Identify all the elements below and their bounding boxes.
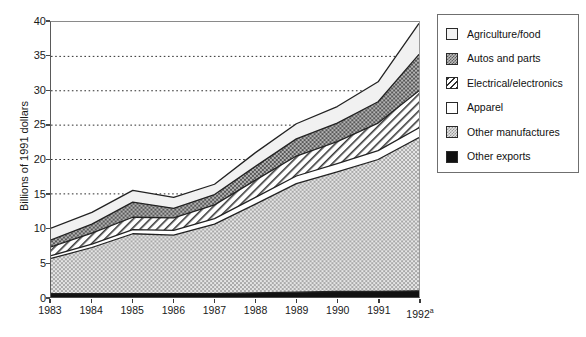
legend-item-agriculture-food[interactable]: Agriculture/food bbox=[446, 27, 541, 41]
y-tick-label: 25 bbox=[22, 119, 46, 130]
y-axis-ticks: 0510152025303540 bbox=[18, 0, 46, 337]
x-tick-mark bbox=[419, 299, 420, 303]
legend-label: Other exports bbox=[467, 151, 531, 162]
legend-item-electrical-electronics[interactable]: Electrical/electronics bbox=[446, 76, 563, 90]
legend-swatch-icon bbox=[446, 126, 458, 138]
plot-area bbox=[50, 21, 420, 298]
legend-label: Other manufactures bbox=[467, 127, 560, 138]
stacked-area-chart bbox=[51, 22, 419, 297]
legend-label: Agriculture/food bbox=[467, 29, 541, 40]
x-tick-footnote-marker: a bbox=[430, 307, 434, 314]
x-tick-mark bbox=[378, 299, 379, 303]
legend-item-apparel[interactable]: Apparel bbox=[446, 101, 503, 115]
x-tick-mark bbox=[132, 299, 133, 303]
legend-swatch-icon bbox=[446, 151, 458, 163]
y-tick-label: 5 bbox=[22, 258, 46, 269]
legend-swatch-icon bbox=[446, 53, 458, 65]
y-tick-label: 30 bbox=[22, 85, 46, 96]
legend-item-other-manufactures[interactable]: Other manufactures bbox=[446, 125, 560, 139]
x-tick-mark bbox=[255, 299, 256, 303]
x-tick-mark bbox=[337, 299, 338, 303]
y-tick-label: 10 bbox=[22, 223, 46, 234]
x-tick-mark bbox=[173, 299, 174, 303]
area-bands bbox=[51, 23, 419, 297]
chart-page: Billions of 1991 dollars 051015202530354… bbox=[0, 0, 586, 337]
legend-swatch-icon bbox=[446, 102, 458, 114]
legend-label: Electrical/electronics bbox=[467, 78, 563, 89]
legend-item-autos-and-parts[interactable]: Autos and parts bbox=[446, 52, 541, 66]
y-tick-label: 40 bbox=[22, 16, 46, 27]
legend-label: Autos and parts bbox=[467, 53, 541, 64]
legend-label: Apparel bbox=[467, 102, 503, 113]
legend-item-other-exports[interactable]: Other exports bbox=[446, 150, 531, 164]
legend-swatch-icon bbox=[446, 77, 458, 89]
y-tick-label: 35 bbox=[22, 50, 46, 61]
legend-swatch-icon bbox=[446, 28, 458, 40]
x-tick-label: 1992a bbox=[390, 305, 450, 320]
y-tick-label: 15 bbox=[22, 189, 46, 200]
x-tick-mark bbox=[91, 299, 92, 303]
y-tick-label: 20 bbox=[22, 154, 46, 165]
chart-legend: Agriculture/foodAutos and partsElectrica… bbox=[437, 14, 579, 173]
x-tick-mark bbox=[214, 299, 215, 303]
x-tick-mark bbox=[49, 299, 50, 303]
y-tick-label: 0 bbox=[22, 293, 46, 304]
x-tick-mark bbox=[296, 299, 297, 303]
